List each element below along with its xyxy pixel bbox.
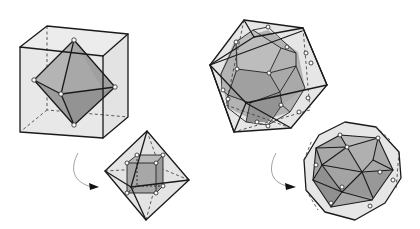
arrowhead-icon: [89, 183, 99, 190]
dodecahedron-with-icosahedron-figure: [304, 122, 401, 220]
arrow-cube-to-octahedron: [74, 153, 99, 190]
arrowhead-icon: [285, 183, 296, 190]
arrow-icosahedron-to-dodecahedron: [271, 153, 296, 190]
icosahedron-with-dodecahedron-figure: [210, 20, 327, 132]
octahedron-with-cube-figure: [105, 131, 189, 220]
cube-with-octahedron-figure: [0, 0, 420, 229]
duality-diagram: [0, 0, 420, 229]
